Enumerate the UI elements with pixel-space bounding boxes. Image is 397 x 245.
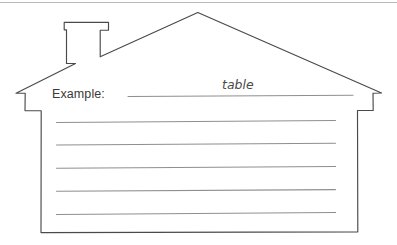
writing-line-5 [57, 212, 336, 214]
writing-line-2 [57, 143, 336, 145]
house-outline-icon [0, 0, 397, 245]
writing-line-4 [57, 190, 336, 192]
example-answer-rule [128, 95, 353, 96]
example-answer-text: table [222, 79, 254, 92]
writing-line-3 [57, 166, 336, 168]
prompt-label: Example: [52, 88, 105, 101]
writing-line-1 [57, 121, 336, 123]
worksheet-page: Example: table [0, 0, 397, 245]
